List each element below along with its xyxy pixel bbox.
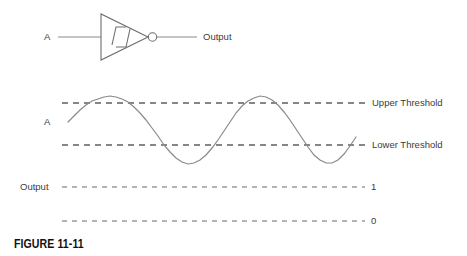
schematic-output-label: Output: [203, 32, 232, 42]
figure-drawing: [0, 0, 467, 256]
hysteresis-glyph-icon: [112, 27, 130, 47]
output-logic-low-label: 0: [371, 216, 376, 226]
waveform-signal-label: A: [44, 117, 50, 127]
figure-caption: FIGURE 11-11: [14, 238, 84, 250]
figure-container: A Output A Upper Threshold Lower Thresho…: [0, 0, 467, 256]
lower-threshold-label: Lower Threshold: [372, 140, 443, 150]
output-trace-label: Output: [20, 182, 49, 192]
output-logic-high-label: 1: [371, 182, 376, 192]
upper-threshold-label: Upper Threshold: [372, 98, 443, 108]
schematic-input-label: A: [44, 32, 50, 42]
inverter-triangle-icon: [101, 14, 148, 60]
schmitt-trigger-schematic: [58, 14, 197, 60]
inversion-bubble-icon: [148, 33, 156, 41]
input-waveform-trace: [68, 96, 356, 164]
